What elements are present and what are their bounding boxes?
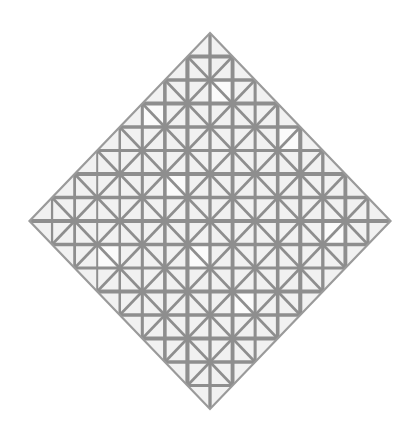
orthogonal-grid-lines — [30, 33, 391, 409]
lozenge-grid-artwork — [0, 0, 416, 434]
